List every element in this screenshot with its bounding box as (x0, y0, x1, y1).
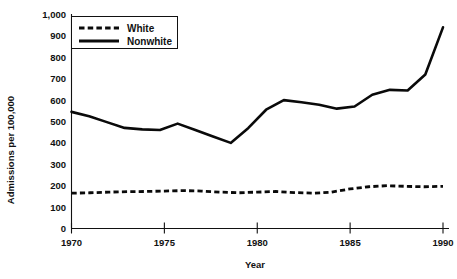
y-tick-label: 400 (50, 137, 66, 148)
y-tick-label: 700 (50, 73, 66, 84)
legend-label-white: White (127, 23, 155, 34)
legend-label-nonwhite: Nonwhite (127, 36, 172, 47)
x-axis-title: Year (245, 259, 265, 270)
y-tick-label: 500 (50, 116, 66, 127)
y-axis-title: Admissions per 100,000 (5, 96, 16, 204)
x-tick-label: 1975 (154, 237, 176, 248)
y-tick-label: 900 (50, 30, 66, 41)
x-tick-label: 1985 (340, 237, 362, 248)
y-tick-label: 800 (50, 52, 66, 63)
chart-canvas: 01002003004005006007008009001,000 197019… (0, 0, 457, 279)
y-tick-label: 0 (61, 223, 66, 234)
y-tick-label: 300 (50, 159, 66, 170)
line-chart: 01002003004005006007008009001,000 197019… (0, 0, 457, 279)
chart-legend: White Nonwhite (72, 17, 178, 49)
x-tick-label: 1980 (247, 237, 268, 248)
y-tick-label: 200 (50, 180, 66, 191)
y-tick-label: 600 (50, 95, 66, 106)
x-tick-label: 1990 (432, 237, 453, 248)
x-tick-label: 1970 (61, 237, 82, 248)
y-tick-label: 100 (50, 202, 66, 213)
y-tick-label: 1,000 (42, 9, 66, 20)
